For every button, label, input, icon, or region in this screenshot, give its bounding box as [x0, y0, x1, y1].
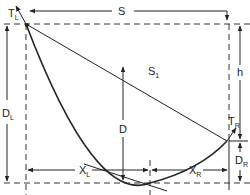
dist-left-label: XL: [79, 164, 90, 178]
chord-label: S1: [148, 65, 159, 79]
tangent-line: [84, 164, 167, 191]
tension-right-label: TR: [228, 115, 240, 129]
span-label: S: [118, 5, 125, 17]
cable-sag-diagram: S DL D S1 TL TR h DR XL XR: [0, 0, 250, 195]
dist-right-label: XR: [189, 164, 201, 178]
sag-right-label: DR: [235, 154, 248, 168]
sag-label: D: [119, 123, 127, 135]
tension-left-label: TL: [8, 7, 19, 21]
tension-right-arrow: [227, 128, 236, 141]
sag-left-label: DL: [2, 107, 14, 121]
height-diff-label: h: [237, 66, 243, 78]
left-support-point: [25, 23, 29, 27]
cable-curve: [26, 24, 227, 185]
